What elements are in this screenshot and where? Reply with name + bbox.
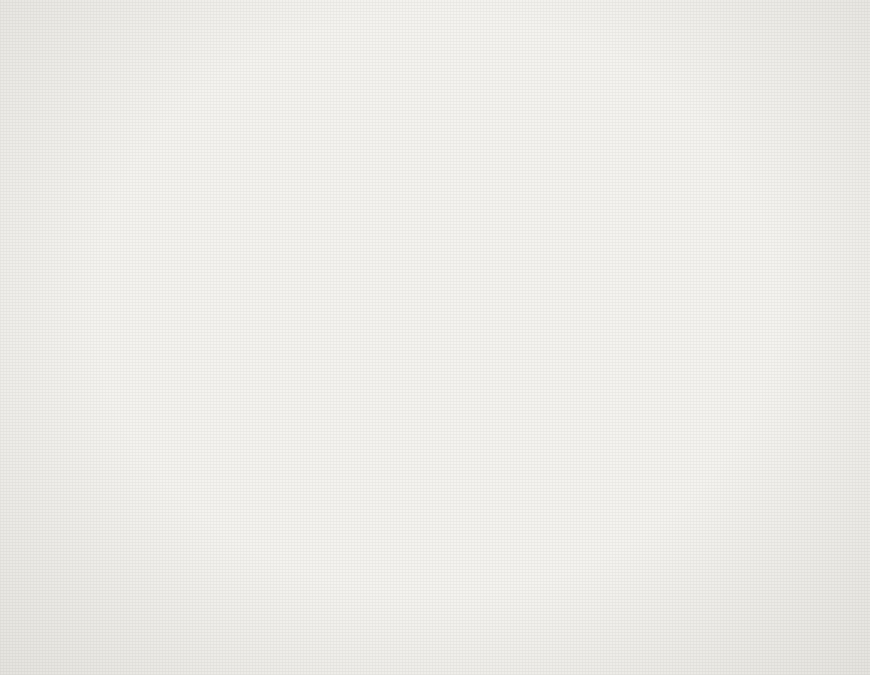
figure-container [0, 0, 870, 675]
